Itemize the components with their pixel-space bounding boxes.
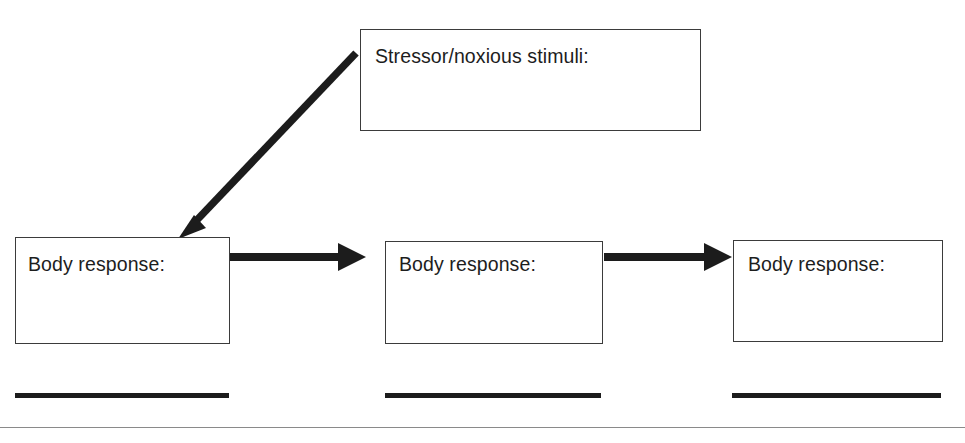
body-response-label-2: Body response: — [399, 255, 536, 275]
page-divider-rule — [0, 427, 965, 428]
answer-line-3 — [732, 393, 941, 398]
answer-line-2 — [385, 393, 601, 398]
body-response-label-3: Body response: — [748, 255, 885, 275]
edge-response-1-to-response-2 — [230, 243, 366, 271]
answer-line-1 — [15, 393, 229, 398]
diagram-canvas: Stressor/noxious stimuli: Body response:… — [0, 0, 965, 443]
stressor-label: Stressor/noxious stimuli: — [375, 47, 589, 67]
edge-stressor-to-response-1 — [178, 53, 356, 239]
edge-response-2-to-response-3 — [604, 243, 732, 271]
body-response-label-1: Body response: — [28, 255, 165, 275]
